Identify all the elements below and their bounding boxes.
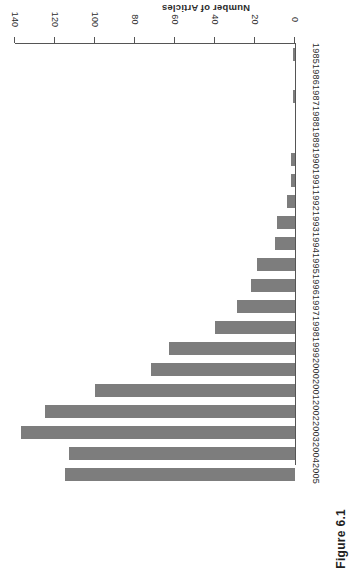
bar xyxy=(45,405,295,418)
tick-label-20: 20 xyxy=(250,8,259,32)
bar xyxy=(293,48,295,61)
bar xyxy=(169,342,295,355)
bar xyxy=(237,300,295,313)
tick-label-80: 80 xyxy=(130,8,139,32)
bar-row xyxy=(15,44,295,65)
tick-20 xyxy=(254,37,255,43)
bar xyxy=(291,174,295,187)
bar-row xyxy=(15,191,295,212)
bar xyxy=(215,321,295,334)
bar-row xyxy=(15,338,295,359)
bar-row xyxy=(15,443,295,464)
tick-120 xyxy=(54,37,55,43)
bar xyxy=(251,279,295,292)
bar xyxy=(257,258,295,271)
bar xyxy=(291,153,295,166)
bar-row xyxy=(15,149,295,170)
tick-label-120: 120 xyxy=(50,8,59,32)
category-label-2005: 2005 xyxy=(311,459,320,489)
bar-row xyxy=(15,212,295,233)
bar-row xyxy=(15,170,295,191)
bar xyxy=(69,447,295,460)
category-axis-line xyxy=(295,43,296,465)
bar-row xyxy=(15,359,295,380)
bar-row xyxy=(15,128,295,149)
bar xyxy=(21,426,295,439)
bar xyxy=(293,90,295,103)
bar-row xyxy=(15,317,295,338)
bar-row xyxy=(15,275,295,296)
tick-0 xyxy=(294,37,295,43)
tick-80 xyxy=(134,37,135,43)
bar xyxy=(65,468,295,481)
value-axis-title: Number of Articles xyxy=(162,3,250,13)
bar-row xyxy=(15,380,295,401)
bar-chart: 020406080100120140 198519861987198819891… xyxy=(15,25,296,465)
bar xyxy=(151,363,295,376)
tick-60 xyxy=(174,37,175,43)
tick-40 xyxy=(214,37,215,43)
bar-series xyxy=(15,44,295,465)
bar-row xyxy=(15,233,295,254)
bar-row xyxy=(15,296,295,317)
bar-row xyxy=(15,86,295,107)
bar-row xyxy=(15,464,295,485)
bar-row xyxy=(15,401,295,422)
bar xyxy=(287,195,295,208)
tick-140 xyxy=(14,37,15,43)
bar-row xyxy=(15,65,295,86)
bar-row xyxy=(15,107,295,128)
tick-label-100: 100 xyxy=(90,8,99,32)
tick-label-140: 140 xyxy=(10,8,19,32)
bar-row xyxy=(15,254,295,275)
figure-caption: Figure 6.1 xyxy=(334,509,348,569)
bar xyxy=(275,237,295,250)
bar xyxy=(95,384,295,397)
bar xyxy=(277,216,295,229)
bar-row xyxy=(15,422,295,443)
tick-100 xyxy=(94,37,95,43)
tick-label-0: 0 xyxy=(290,8,299,32)
